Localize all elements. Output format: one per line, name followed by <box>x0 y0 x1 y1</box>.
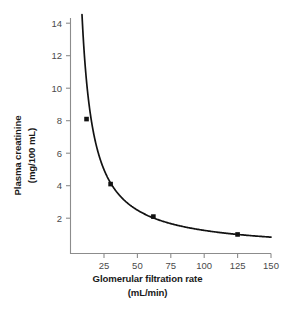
x-tick-labels: 25 50 75 100 125 150 <box>99 260 279 271</box>
y-tick-label: 14 <box>51 18 62 29</box>
chart-figure: 14 12 10 8 6 4 2 25 50 75 100 125 150 <box>0 0 295 311</box>
data-curve <box>82 15 271 238</box>
data-point-marker <box>84 117 89 122</box>
y-tick-label: 8 <box>57 115 62 126</box>
y-tick-marks <box>66 23 71 218</box>
data-point-marker <box>235 232 240 237</box>
x-tick-label: 100 <box>196 260 212 271</box>
x-tick-label: 50 <box>132 260 143 271</box>
y-tick-label: 4 <box>57 180 62 191</box>
x-axis-title-line1: Glomerular filtration rate <box>0 272 295 286</box>
y-tick-label: 6 <box>57 148 62 159</box>
y-tick-label: 10 <box>51 83 62 94</box>
x-tick-label: 125 <box>230 260 246 271</box>
x-tick-label: 25 <box>99 260 110 271</box>
x-tick-label: 150 <box>263 260 279 271</box>
x-axis-title: Glomerular filtration rate (mL/min) <box>0 272 295 299</box>
y-axis-title-line2: (mg/100 mL) <box>25 128 39 183</box>
y-axis-title-line1: Plasma creatinine <box>11 116 25 196</box>
y-axis-title: Plasma creatinine (mg/100 mL) <box>0 0 49 311</box>
y-tick-label: 2 <box>57 213 62 224</box>
data-point-marker <box>151 214 156 219</box>
x-tick-label: 75 <box>166 260 177 271</box>
y-tick-labels: 14 12 10 8 6 4 2 <box>51 18 62 224</box>
x-tick-marks <box>104 254 271 259</box>
axis-lines <box>71 18 272 254</box>
y-tick-label: 12 <box>51 50 62 61</box>
x-axis-title-line2: (mL/min) <box>0 286 295 300</box>
data-point-marker <box>108 182 113 187</box>
